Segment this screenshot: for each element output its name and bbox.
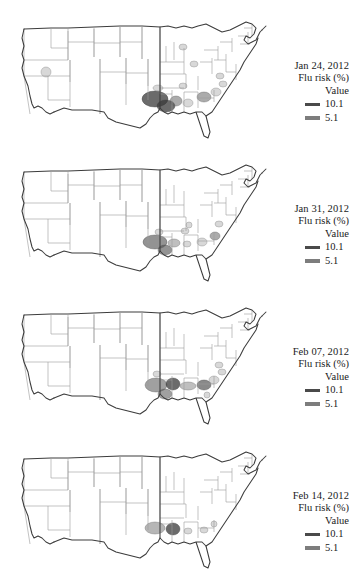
hotspot [168,239,180,247]
legend-value-label: Value [257,228,349,240]
hotspot [215,221,223,227]
country-outline-layer [22,165,266,281]
hotspot [211,88,221,96]
us-map-svg [8,145,268,290]
hotspot [166,523,180,535]
hotspot [184,528,192,534]
legend-swatch-low-icon [305,116,320,120]
state-borders-layer [24,310,252,400]
legend-date: Feb 14, 2012 [257,490,349,502]
country-outline-layer [22,22,266,138]
legend-date: Feb 07, 2012 [257,346,349,358]
legend-entry-high: 10.1 [257,98,349,110]
hotspot [197,92,211,102]
legend-entry-high: 10.1 [257,241,349,253]
legend-date: Jan 31, 2012 [257,203,349,215]
legend-date: Jan 24, 2012 [257,60,349,72]
hotspot [204,392,210,398]
map-panel-1: Jan 24, 2012 Flu risk (%) Value 10.1 5.1 [0,2,353,147]
country-outline-layer [22,452,266,568]
hotspot [186,222,192,228]
legend-high-label: 10.1 [325,528,349,540]
hotspot [218,369,226,375]
legend-subtitle: Flu risk (%) [257,502,349,514]
hotspot [216,73,224,79]
map-panel-3: Feb 07, 2012 Flu risk (%) Value 10.1 5.1 [0,288,353,433]
legend-swatch-high-icon [305,389,320,392]
legend-swatch-high-icon [305,533,320,536]
legend-entry-low: 5.1 [257,112,349,124]
map-legend: Feb 14, 2012 Flu risk (%) Value 10.1 5.1 [257,490,349,554]
legend-swatch-low-icon [305,546,320,550]
map-legend: Jan 24, 2012 Flu risk (%) Value 10.1 5.1 [257,60,349,124]
legend-low-label: 5.1 [325,398,349,410]
us-map[interactable] [8,432,268,577]
legend-swatch-low-icon [305,259,320,263]
legend-entry-low: 5.1 [257,398,349,410]
legend-subtitle: Flu risk (%) [257,215,349,227]
legend-entry-low: 5.1 [257,542,349,554]
us-map[interactable] [8,2,268,147]
hotspot [219,81,227,87]
legend-swatch-low-icon [305,402,320,406]
map-panel-4: Feb 14, 2012 Flu risk (%) Value 10.1 5.1 [0,432,353,577]
hotspot [210,232,220,240]
hotspot [197,380,211,390]
map-legend: Feb 07, 2012 Flu risk (%) Value 10.1 5.1 [257,346,349,410]
hotspot [215,362,223,368]
state-borders-layer [24,167,252,257]
us-map-svg [8,288,268,433]
hotspot-layer [143,221,223,255]
legend-entry-low: 5.1 [257,255,349,267]
legend-high-label: 10.1 [325,98,349,110]
country-outline-layer [22,308,266,424]
hotspot [41,67,51,77]
legend-value-label: Value [257,371,349,383]
legend-value-label: Value [257,85,349,97]
legend-low-label: 5.1 [325,112,349,124]
legend-swatch-high-icon [305,246,320,249]
hotspot [197,238,207,246]
us-map[interactable] [8,145,268,290]
legend-subtitle: Flu risk (%) [257,72,349,84]
state-borders-layer [24,454,252,544]
legend-value-label: Value [257,515,349,527]
hotspot [190,61,198,67]
hotspot [180,382,196,390]
hotspot [179,44,187,50]
legend-high-label: 10.1 [325,384,349,396]
hotspot [155,229,163,235]
map-legend: Jan 31, 2012 Flu risk (%) Value 10.1 5.1 [257,203,349,267]
legend-entry-high: 10.1 [257,384,349,396]
state-borders-layer [24,24,252,114]
legend-entry-high: 10.1 [257,528,349,540]
us-map-svg [8,2,268,147]
hotspot-layer [41,44,227,112]
legend-low-label: 5.1 [325,255,349,267]
legend-swatch-high-icon [305,103,320,106]
us-map-svg [8,432,268,577]
legend-low-label: 5.1 [325,542,349,554]
legend-high-label: 10.1 [325,241,349,253]
legend-subtitle: Flu risk (%) [257,358,349,370]
map-panel-2: Jan 31, 2012 Flu risk (%) Value 10.1 5.1 [0,145,353,290]
hotspot [183,99,193,107]
us-map[interactable] [8,288,268,433]
